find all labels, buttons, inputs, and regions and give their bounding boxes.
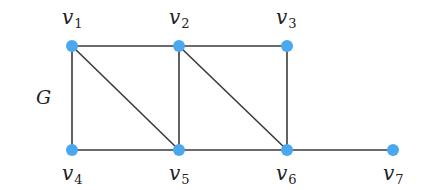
label-v7: v7 [383,161,404,187]
label-v2: v2 [169,5,190,31]
edge-v2-v6 [179,46,287,150]
node-v1 [66,40,78,52]
node-v3 [281,40,293,52]
node-v6 [281,144,293,156]
label-v1: v1 [62,5,83,31]
graph-name-label: G [36,86,51,108]
label-v3: v3 [276,5,297,31]
edges [72,46,393,150]
label-v5: v5 [169,161,190,187]
node-v5 [173,144,185,156]
node-labels: v1v2v3v4v5v6v7 [62,5,404,187]
graph-diagram: v1v2v3v4v5v6v7 G [0,0,423,190]
label-v4: v4 [62,161,83,187]
node-v2 [173,40,185,52]
label-v6: v6 [276,161,297,187]
node-v7 [387,144,399,156]
edge-v1-v5 [72,46,179,150]
node-v4 [66,144,78,156]
